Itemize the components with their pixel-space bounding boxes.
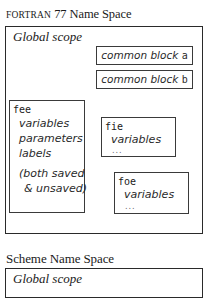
common-block-name: b — [182, 74, 188, 85]
common-block-label: common block — [101, 49, 181, 61]
procedure-note: & unsaved) — [24, 181, 87, 196]
title-fortran-word: FORTRAN — [6, 10, 51, 20]
ellipsis: ... — [125, 202, 136, 211]
procedure-item: labels — [19, 146, 51, 161]
procedure-item: parameters — [19, 131, 83, 146]
common-block-a: common block a — [96, 46, 193, 65]
procedure-box-fee: fee variables parameters labels (both sa… — [9, 100, 85, 213]
fortran-name-space-title: FORTRAN 77 Name Space — [6, 7, 131, 22]
title-rest: 77 Name Space — [51, 7, 131, 21]
common-block-b: common block b — [96, 70, 193, 89]
scheme-global-scope-label: Global scope — [13, 271, 82, 287]
fortran-global-scope-label: Global scope — [13, 29, 82, 45]
ellipsis: ... — [112, 146, 123, 155]
procedure-box-fie: fie variables ... — [101, 117, 176, 157]
procedure-box-foe: foe variables ... — [114, 172, 189, 214]
common-block-name: a — [182, 50, 188, 61]
scheme-name-space-title: Scheme Name Space — [6, 251, 114, 267]
procedure-item: variables — [124, 187, 174, 202]
procedure-name: fee — [13, 104, 31, 116]
procedure-note: (both saved — [19, 166, 85, 181]
procedure-item: variables — [111, 132, 161, 147]
common-block-label: common block — [101, 73, 181, 85]
procedure-item: variables — [19, 116, 69, 131]
